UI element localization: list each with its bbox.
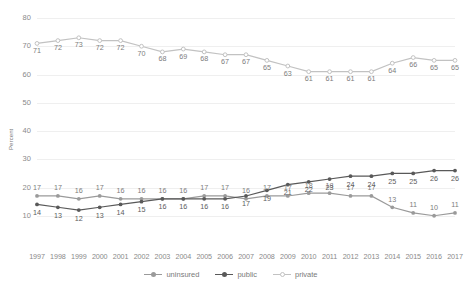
data-label-uninsured: 11 xyxy=(447,200,463,209)
data-point-private xyxy=(202,50,206,54)
data-point-private xyxy=(390,61,394,65)
legend-label-uninsured: uninsured xyxy=(166,270,199,279)
data-point-uninsured xyxy=(390,205,394,209)
chart-legend: uninsured public private xyxy=(0,270,462,279)
legend-label-public: public xyxy=(237,270,257,279)
data-label-public: 19 xyxy=(259,194,275,203)
data-point-public xyxy=(98,205,102,209)
data-label-uninsured: 17 xyxy=(50,183,66,192)
data-point-public xyxy=(181,197,185,201)
data-label-public: 23 xyxy=(322,183,338,192)
data-point-uninsured xyxy=(328,191,332,195)
data-point-uninsured xyxy=(349,194,353,198)
legend-item-public[interactable]: public xyxy=(215,270,257,279)
data-label-public: 16 xyxy=(196,202,212,211)
legend-label-private: private xyxy=(295,270,318,279)
data-point-uninsured xyxy=(119,197,123,201)
data-point-private xyxy=(161,50,165,54)
data-label-public: 25 xyxy=(384,177,400,186)
data-label-private: 61 xyxy=(322,74,338,83)
data-label-public: 26 xyxy=(447,174,463,183)
data-point-private xyxy=(140,44,144,48)
data-point-public xyxy=(56,205,60,209)
data-label-private: 70 xyxy=(134,49,150,58)
data-point-private xyxy=(223,53,227,57)
data-point-public xyxy=(161,197,165,201)
data-label-private: 69 xyxy=(175,52,191,61)
data-point-public xyxy=(202,197,206,201)
data-label-private: 72 xyxy=(92,43,108,52)
data-label-uninsured: 17 xyxy=(92,183,108,192)
data-label-public: 26 xyxy=(426,174,442,183)
data-label-public: 24 xyxy=(363,180,379,189)
data-point-private xyxy=(432,58,436,62)
data-point-private xyxy=(265,58,269,62)
data-label-uninsured: 17 xyxy=(29,183,45,192)
data-label-private: 67 xyxy=(238,57,254,66)
data-label-private: 67 xyxy=(217,57,233,66)
data-point-private xyxy=(119,39,123,43)
data-label-private: 68 xyxy=(154,54,170,63)
data-point-private xyxy=(286,64,290,68)
data-label-public: 13 xyxy=(50,211,66,220)
data-label-uninsured: 11 xyxy=(405,200,421,209)
data-point-uninsured xyxy=(432,214,436,218)
data-label-uninsured: 16 xyxy=(154,186,170,195)
data-label-public: 24 xyxy=(343,180,359,189)
data-label-public: 12 xyxy=(71,214,87,223)
data-point-public xyxy=(349,174,353,178)
data-point-public xyxy=(390,171,394,175)
data-label-private: 61 xyxy=(363,74,379,83)
data-point-private xyxy=(98,39,102,43)
data-point-uninsured xyxy=(453,211,457,215)
data-point-private xyxy=(328,70,332,74)
data-label-public: 21 xyxy=(280,188,296,197)
data-point-private xyxy=(370,70,374,74)
data-point-uninsured xyxy=(411,211,415,215)
data-label-private: 65 xyxy=(447,63,463,72)
data-point-public xyxy=(432,169,436,173)
data-point-private xyxy=(181,47,185,51)
data-point-uninsured xyxy=(370,194,374,198)
data-point-public xyxy=(119,203,123,207)
data-label-private: 72 xyxy=(50,43,66,52)
legend-item-private[interactable]: private xyxy=(273,270,318,279)
data-label-uninsured: 10 xyxy=(426,203,442,212)
data-label-private: 61 xyxy=(301,74,317,83)
data-point-private xyxy=(349,70,353,74)
data-point-uninsured xyxy=(35,194,39,198)
data-label-public: 13 xyxy=(92,211,108,220)
data-label-uninsured: 13 xyxy=(384,195,400,204)
legend-swatch-public xyxy=(215,271,233,278)
data-label-private: 61 xyxy=(343,74,359,83)
data-point-uninsured xyxy=(56,194,60,198)
data-label-public: 14 xyxy=(29,208,45,217)
data-label-public: 16 xyxy=(154,202,170,211)
data-point-public xyxy=(411,171,415,175)
data-label-uninsured: 16 xyxy=(113,186,129,195)
data-point-uninsured xyxy=(98,194,102,198)
data-point-private xyxy=(244,53,248,57)
legend-swatch-uninsured xyxy=(144,271,162,278)
data-label-private: 65 xyxy=(426,63,442,72)
data-label-private: 65 xyxy=(259,63,275,72)
data-point-private xyxy=(411,56,415,60)
data-label-private: 71 xyxy=(29,46,45,55)
data-label-private: 68 xyxy=(196,54,212,63)
legend-item-uninsured[interactable]: uninsured xyxy=(144,270,199,279)
data-label-private: 64 xyxy=(384,66,400,75)
data-label-private: 72 xyxy=(113,43,129,52)
data-point-uninsured xyxy=(77,197,81,201)
data-label-public: 16 xyxy=(175,202,191,211)
data-point-private xyxy=(77,36,81,40)
data-point-public xyxy=(453,169,457,173)
data-label-uninsured: 16 xyxy=(71,186,87,195)
data-label-private: 63 xyxy=(280,69,296,78)
data-point-public xyxy=(77,208,81,212)
data-label-uninsured: 16 xyxy=(175,186,191,195)
data-point-private xyxy=(35,42,39,46)
data-label-private: 66 xyxy=(405,60,421,69)
data-label-private: 73 xyxy=(71,40,87,49)
